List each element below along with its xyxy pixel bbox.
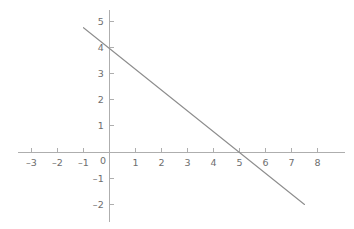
- axis-group: [18, 10, 345, 222]
- y-tick-label--2: –2: [93, 200, 104, 210]
- x-tick-label-5: 5: [236, 158, 242, 168]
- y-tick-label-3: 3: [98, 69, 104, 79]
- data-line-series-0: [84, 28, 305, 205]
- x-tick-label--1: –1: [78, 158, 89, 168]
- y-tick-label-5: 5: [98, 17, 104, 27]
- x-tick-label--3: –3: [26, 158, 37, 168]
- x-tick-label--2: –2: [52, 158, 63, 168]
- y-tick-label-4: 4: [98, 43, 104, 53]
- y-tick-label-2: 2: [98, 95, 104, 105]
- chart-canvas: –3 –2 –1 0 1 2 3 4 5 6 7 8 5 4 3 2 1 –1 …: [0, 0, 354, 229]
- x-tick-label-8: 8: [314, 158, 320, 168]
- chart-plot-area: [0, 0, 354, 229]
- x-tick-label-1: 1: [132, 158, 138, 168]
- x-tick-label-4: 4: [210, 158, 216, 168]
- x-tick-label-0: 0: [100, 156, 106, 166]
- x-tick-marks: [32, 148, 318, 153]
- x-tick-label-6: 6: [262, 158, 268, 168]
- y-tick-label--1: –1: [93, 174, 104, 184]
- x-tick-label-2: 2: [158, 158, 164, 168]
- x-tick-label-3: 3: [184, 158, 190, 168]
- x-tick-label-7: 7: [288, 158, 294, 168]
- y-tick-label-1: 1: [98, 121, 104, 131]
